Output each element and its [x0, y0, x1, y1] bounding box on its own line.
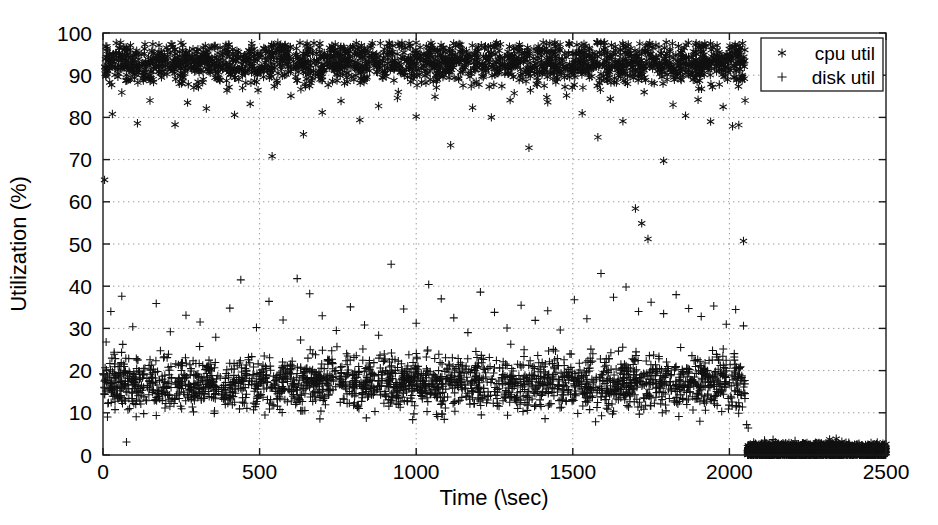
x-tick-label: 2000	[706, 460, 753, 483]
x-tick-label: 2500	[863, 460, 910, 483]
y-tick-label: 30	[69, 317, 92, 340]
chart-figure: 05001000150020002500 0102030405060708090…	[0, 0, 938, 525]
x-tick-label: 0	[97, 460, 109, 483]
y-tick-label: 0	[80, 444, 92, 467]
y-tick-label: 40	[69, 275, 92, 298]
legend-label: cpu util	[815, 43, 875, 64]
y-tick-label: 90	[69, 64, 92, 87]
x-tick-label: 1000	[393, 460, 440, 483]
chart-legend[interactable]: cpu utildisk util	[761, 38, 883, 91]
y-tick-label: 100	[57, 22, 92, 45]
x-tick-label: 1500	[549, 460, 596, 483]
y-tick-label: 80	[69, 106, 92, 129]
legend-label: disk util	[812, 67, 875, 88]
y-tick-label: 70	[69, 148, 92, 171]
x-axis-title: Time (\sec)	[439, 485, 548, 510]
y-tick-label: 20	[69, 359, 92, 382]
y-tick-label: 60	[69, 190, 92, 213]
scatter-plot: 05001000150020002500 0102030405060708090…	[0, 0, 938, 525]
y-tick-label: 50	[69, 233, 92, 256]
y-tick-label: 10	[69, 401, 92, 424]
y-axis-title: Utilization (%)	[6, 176, 31, 312]
x-tick-label: 500	[242, 460, 277, 483]
